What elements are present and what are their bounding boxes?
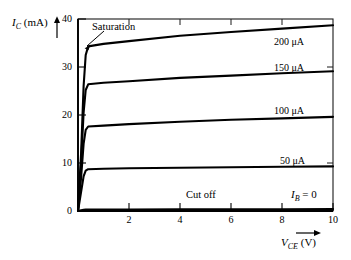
saturation-annotation: Saturation	[92, 21, 135, 32]
x-tick-label-8: 8	[272, 214, 292, 225]
transistor-output-characteristics-figure: IC (mA) VCE (V) 0 10 20 30 40 2 4 6 8 10…	[0, 0, 351, 260]
cutoff-annotation: Cut off	[186, 189, 216, 200]
x-axis-title: VCE (V)	[281, 236, 316, 251]
x-tick-label-6: 6	[221, 214, 241, 225]
ib-zero-annotation: IB = 0	[291, 188, 317, 203]
curve-label-100ua: 100 μA	[274, 105, 304, 116]
x-axis-unit: (V)	[301, 236, 316, 248]
y-axis-unit: (mA)	[24, 16, 48, 28]
y-tick-label-0: 0	[52, 205, 72, 216]
x-axis-subscript: CE	[288, 242, 298, 251]
x-axis-symbol: V	[281, 236, 288, 248]
y-tick-label-10: 10	[52, 157, 72, 168]
curve-label-50ua: 50 μA	[280, 155, 305, 166]
curve-label-200ua: 200 μA	[274, 36, 304, 47]
y-axis-subscript: C	[16, 22, 21, 31]
y-tick-label-40: 40	[52, 13, 72, 24]
x-tick-label-4: 4	[170, 214, 190, 225]
y-tick-label-20: 20	[52, 109, 72, 120]
ib-zero-value: = 0	[302, 188, 316, 200]
y-tick-label-30: 30	[52, 61, 72, 72]
curve-label-150ua: 150 μA	[274, 62, 304, 73]
y-axis-title: IC (mA)	[12, 16, 48, 31]
ib-zero-subscript: B	[295, 194, 300, 203]
x-tick-label-2: 2	[119, 214, 139, 225]
x-tick-label-10: 10	[323, 214, 343, 225]
